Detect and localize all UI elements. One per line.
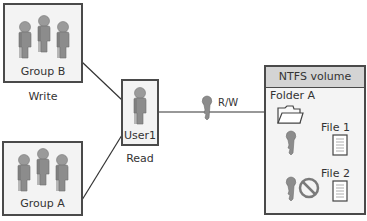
user1-box: User1: [121, 79, 159, 146]
folder-icon: [276, 104, 304, 126]
file-1-label: File 1: [321, 121, 350, 134]
key-icon: [281, 127, 301, 163]
group-a-box: Group A: [2, 141, 83, 216]
group-b-label: Group B: [5, 65, 81, 78]
user-icon: [125, 85, 155, 129]
group-b-permission: Write: [3, 90, 83, 103]
ntfs-volume-title: NTFS volume: [266, 67, 364, 88]
document-icon: [332, 134, 348, 156]
folder-label: Folder A: [270, 89, 315, 102]
group-icon: [10, 148, 76, 196]
group-b-box: Group B: [3, 3, 83, 83]
deny-icon: [297, 176, 321, 200]
document-icon: [332, 180, 348, 202]
connection-label: R/W: [218, 97, 238, 108]
ntfs-volume-box: NTFS volume Folder A File 1 File 2: [264, 65, 366, 215]
user1-permission: Read: [121, 152, 159, 165]
group-a-label: Group A: [4, 197, 81, 210]
key-icon: [197, 92, 217, 126]
user1-label: User1: [123, 129, 157, 142]
file-2-label: File 2: [321, 167, 350, 180]
group-icon: [11, 15, 77, 63]
